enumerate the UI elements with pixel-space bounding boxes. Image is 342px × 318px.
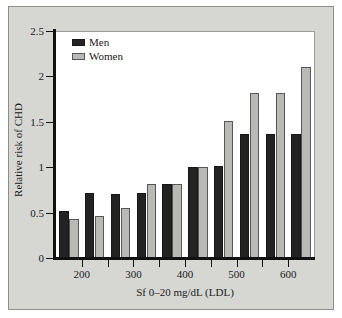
- x-axis-tick: [185, 260, 186, 267]
- x-axis-tick: [211, 260, 212, 267]
- bar-men-group-3: [111, 194, 121, 259]
- bar-women-group-10: [301, 67, 311, 259]
- x-axis-tick-label: 300: [113, 269, 153, 280]
- bar-men-group-5: [162, 184, 172, 259]
- legend-label-women: Women: [89, 51, 123, 62]
- bar-men-group-4: [137, 193, 147, 259]
- y-axis-tick-label: 2.5: [0, 26, 44, 37]
- bar-women-group-8: [250, 93, 260, 259]
- x-axis-tick: [159, 260, 160, 267]
- bar-women-group-1: [69, 219, 79, 259]
- bar-men-group-7: [214, 166, 224, 259]
- x-axis-tick: [262, 260, 263, 267]
- x-axis-tick-label: 600: [268, 269, 308, 280]
- x-axis-title: Sf 0–20 mg/dL (LDL): [56, 286, 314, 298]
- y-axis-tick: [46, 213, 54, 214]
- bar-women-group-6: [198, 167, 208, 259]
- y-axis-tick: [46, 258, 54, 259]
- x-axis-tick: [82, 260, 83, 267]
- legend-label-men: Men: [89, 37, 109, 48]
- bar-men-group-9: [266, 134, 276, 259]
- bar-women-group-2: [95, 216, 105, 259]
- x-axis-tick: [288, 260, 289, 267]
- legend-swatch-men-icon: [72, 39, 85, 46]
- bar-men-group-6: [188, 167, 198, 259]
- legend-item-men: Men: [72, 36, 123, 49]
- x-axis-tick-label: 500: [217, 269, 257, 280]
- legend-swatch-women-icon: [72, 53, 85, 60]
- bar-women-group-4: [147, 184, 157, 259]
- chart-legend: Men Women: [72, 36, 123, 64]
- bar-women-group-5: [172, 184, 182, 259]
- bar-men-group-1: [59, 211, 69, 259]
- bar-men-group-2: [85, 193, 95, 259]
- x-axis-tick-label: 200: [62, 269, 102, 280]
- y-axis-tick: [46, 122, 54, 123]
- y-axis-tick: [46, 167, 54, 168]
- y-axis-tick-label: 0: [0, 253, 44, 264]
- y-axis-spine: [53, 29, 56, 260]
- x-axis-spine: [53, 257, 315, 260]
- x-axis-tick: [237, 260, 238, 267]
- bar-men-group-8: [240, 134, 250, 259]
- y-axis-tick: [46, 31, 54, 32]
- bar-women-group-7: [224, 121, 234, 259]
- legend-item-women: Women: [72, 50, 123, 63]
- plot-area: [56, 31, 315, 259]
- y-axis-title: Relative risk of CHD: [12, 70, 24, 230]
- bar-men-group-10: [291, 134, 301, 259]
- x-axis-tick-label: 400: [165, 269, 205, 280]
- y-axis-tick: [46, 76, 54, 77]
- bar-women-group-3: [121, 208, 131, 259]
- x-axis-tick: [108, 260, 109, 267]
- bar-women-group-9: [276, 93, 286, 259]
- x-axis-tick: [133, 260, 134, 267]
